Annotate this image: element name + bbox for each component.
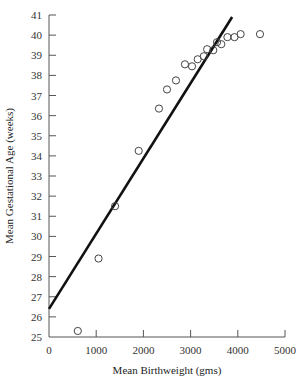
y-tick-label: 31 <box>31 210 42 222</box>
data-point <box>224 34 231 41</box>
y-tick-label: 28 <box>31 271 43 283</box>
data-point <box>172 77 179 84</box>
regression-line-path <box>49 17 232 309</box>
data-point <box>188 63 195 70</box>
y-tick-label: 25 <box>31 331 43 343</box>
y-axis-ticks: 2526272829303132333435363738394041 <box>31 9 56 343</box>
data-point <box>155 105 162 112</box>
x-tick-label: 4000 <box>227 344 250 356</box>
x-tick-label: 1000 <box>85 344 108 356</box>
y-tick-label: 34 <box>31 150 43 162</box>
data-point <box>135 147 142 154</box>
y-tick-label: 37 <box>31 90 43 102</box>
y-tick-label: 41 <box>31 9 42 21</box>
data-points <box>74 31 263 335</box>
data-point <box>74 327 81 334</box>
y-tick-label: 30 <box>31 230 43 242</box>
y-tick-label: 40 <box>31 29 43 41</box>
axes <box>49 15 285 337</box>
data-point <box>181 61 188 68</box>
y-tick-label: 26 <box>31 311 43 323</box>
x-tick-label: 2000 <box>132 344 155 356</box>
x-tick-label: 5000 <box>274 344 297 356</box>
x-tick-label: 0 <box>46 344 52 356</box>
y-tick-label: 35 <box>31 130 43 142</box>
y-tick-label: 33 <box>31 170 43 182</box>
scatter-chart: 010002000300040005000 252627282930313233… <box>0 0 307 386</box>
data-point <box>237 31 244 38</box>
x-axis-ticks: 010002000300040005000 <box>46 330 296 356</box>
data-point <box>218 41 225 48</box>
data-point <box>95 255 102 262</box>
y-tick-label: 29 <box>31 251 43 263</box>
x-axis-label: Mean Birthweight (gms) <box>113 364 222 377</box>
y-tick-label: 39 <box>31 49 43 61</box>
data-point <box>256 31 263 38</box>
regression-line <box>49 17 232 309</box>
data-point <box>163 86 170 93</box>
y-axis-label: Mean Gestational Age (weeks) <box>3 108 16 244</box>
y-tick-label: 27 <box>31 291 43 303</box>
y-tick-label: 38 <box>31 69 43 81</box>
y-tick-label: 36 <box>31 110 43 122</box>
x-tick-label: 3000 <box>180 344 203 356</box>
y-tick-label: 32 <box>31 190 42 202</box>
